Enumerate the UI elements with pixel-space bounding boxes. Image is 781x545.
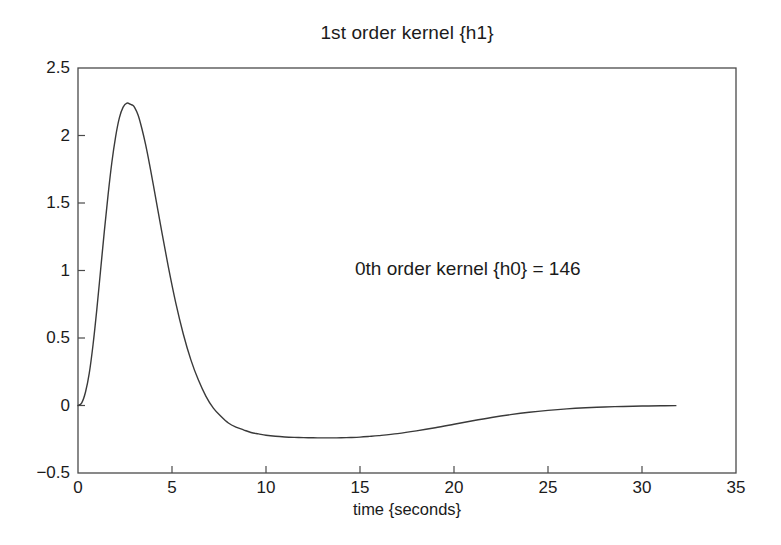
x-axis-ticks: [172, 466, 642, 473]
x-tick-label: 35: [727, 478, 746, 498]
x-tick-label: 20: [445, 478, 464, 498]
x-tick-label: 25: [539, 478, 558, 498]
x-tick-label: 10: [257, 478, 276, 498]
x-tick-label: 15: [351, 478, 370, 498]
x-tick-label: 5: [167, 478, 176, 498]
x-tick-label: 0: [73, 478, 82, 498]
y-axis-ticks: [78, 136, 85, 406]
x-tick-label: 30: [633, 478, 652, 498]
plot-area: [0, 0, 781, 545]
data-series-h1: [78, 103, 676, 438]
figure-canvas: 1st order kernel {h1} 0th order kernel {…: [0, 0, 781, 545]
axes-frame: [78, 68, 736, 473]
kernel-curve: [78, 103, 676, 438]
axes-box: [78, 68, 736, 473]
